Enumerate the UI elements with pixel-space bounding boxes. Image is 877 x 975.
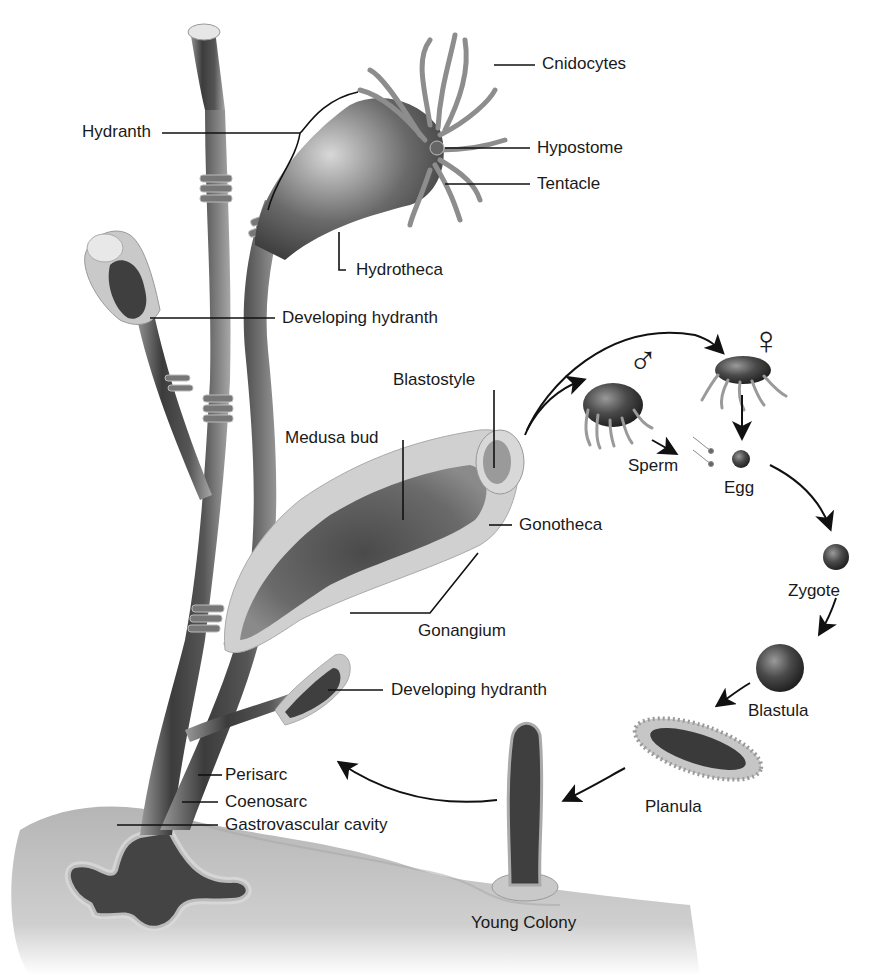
blastula [756,644,804,692]
zygote [823,544,849,570]
sperm-cells [693,437,714,467]
hydranth-body [255,98,444,260]
label-egg: Egg [724,478,754,498]
young-colony [492,723,558,901]
male-symbol-icon: ♂ [628,340,658,380]
hydrozoan-life-cycle-diagram: Cnidocytes Hydranth Hypostome Tentacle H… [0,0,877,975]
label-gonangium: Gonangium [418,621,506,641]
label-hydranth: Hydranth [82,122,151,142]
label-perisarc: Perisarc [225,765,287,785]
label-gonotheca: Gonotheca [519,515,602,535]
label-zygote: Zygote [788,581,840,601]
branch-developing-hydranth-top [135,305,212,500]
label-cnidocytes: Cnidocytes [542,54,626,74]
label-blastostyle: Blastostyle [393,370,475,390]
label-developing-hydranth-top: Developing hydranth [282,308,438,328]
label-medusa-bud: Medusa bud [285,428,379,448]
label-planula: Planula [645,797,702,817]
label-hydrotheca: Hydrotheca [356,260,443,280]
label-coenosarc: Coenosarc [225,792,307,812]
male-medusa [583,383,652,448]
label-young-colony: Young Colony [471,913,576,933]
female-medusa [702,356,786,410]
label-developing-hydranth-bottom: Developing hydranth [391,680,547,700]
label-gastrovascular-cavity: Gastrovascular cavity [225,815,388,835]
egg [732,450,750,468]
label-tentacle: Tentacle [537,174,600,194]
female-symbol-icon: ♀ [751,320,781,360]
label-hypostome: Hypostome [537,138,623,158]
label-blastula: Blastula [748,701,808,721]
label-sperm: Sperm [628,456,678,476]
